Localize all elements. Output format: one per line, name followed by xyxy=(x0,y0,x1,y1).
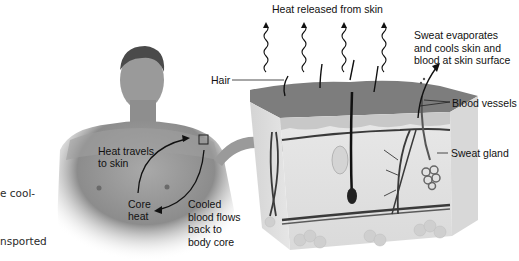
skin-cross-section xyxy=(250,60,478,250)
label-core-heat: Core heat xyxy=(128,198,151,222)
paragraph-line: nsported xyxy=(0,233,60,249)
label-sweat-gland: Sweat gland xyxy=(451,147,509,159)
label-heat-released: Heat released from skin xyxy=(272,3,383,15)
label-heat-travels: Heat travels to skin xyxy=(98,145,154,169)
label-cooled-blood: Cooled blood flows back to body core xyxy=(188,198,241,248)
body-paragraph-fragment: e cool- nsported the of the into t. This… xyxy=(0,152,60,261)
paragraph-line: e cool- xyxy=(0,185,60,201)
label-hair: Hair xyxy=(211,74,230,86)
label-sweat-evaporates: Sweat evaporates and cools skin and bloo… xyxy=(414,29,510,67)
label-blood-vessels: Blood vessels xyxy=(452,97,517,109)
heat-wave-arrows xyxy=(264,26,386,72)
